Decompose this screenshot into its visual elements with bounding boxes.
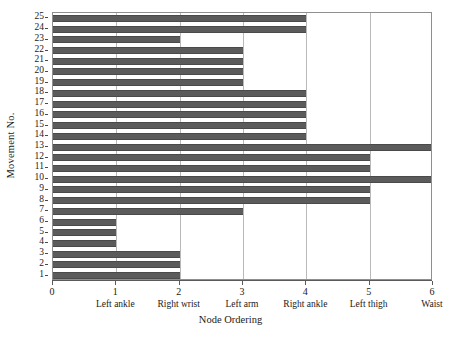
bar-movement-6 bbox=[53, 219, 116, 226]
y-tick-mark-7 bbox=[45, 210, 48, 211]
y-tick-label-21: 21 bbox=[35, 55, 45, 65]
y-tick-mark-15 bbox=[45, 125, 48, 126]
bar-movement-10 bbox=[53, 176, 432, 183]
bar-movement-11 bbox=[53, 165, 370, 172]
y-tick-label-17: 17 bbox=[35, 98, 45, 108]
bar-movement-7 bbox=[53, 208, 243, 215]
x-tick-number-5: 5 bbox=[366, 286, 371, 297]
y-tick-mark-9 bbox=[45, 189, 48, 190]
bar-movement-23 bbox=[53, 36, 180, 43]
y-tick-label-23: 23 bbox=[35, 34, 45, 44]
x-tick-number-2: 2 bbox=[176, 286, 181, 297]
y-tick-label-4: 4 bbox=[39, 238, 44, 248]
x-tick-number-6: 6 bbox=[430, 286, 435, 297]
y-tick-label-10: 10 bbox=[35, 173, 45, 183]
x-tick-mark-4 bbox=[305, 281, 306, 285]
y-tick-mark-25 bbox=[45, 17, 48, 18]
y-tick-mark-22 bbox=[45, 50, 48, 51]
x-tick-mark-6 bbox=[432, 281, 433, 285]
plot-area bbox=[52, 12, 432, 280]
x-tick-node-name-3: Left arm bbox=[226, 299, 259, 310]
bar-movement-13 bbox=[53, 144, 432, 151]
y-tick-label-8: 8 bbox=[39, 195, 44, 205]
y-tick-mark-13 bbox=[45, 146, 48, 147]
y-tick-mark-16 bbox=[45, 114, 48, 115]
bar-movement-16 bbox=[53, 111, 306, 118]
bar-movement-5 bbox=[53, 229, 116, 236]
x-tick-node-name-5: Left thigh bbox=[350, 299, 388, 310]
bar-movement-19 bbox=[53, 79, 243, 86]
y-tick-mark-3 bbox=[45, 253, 48, 254]
y-tick-label-1: 1 bbox=[39, 270, 44, 280]
y-tick-label-24: 24 bbox=[35, 23, 45, 33]
bar-movement-21 bbox=[53, 58, 243, 65]
y-tick-label-11: 11 bbox=[35, 163, 44, 173]
bar-movement-14 bbox=[53, 133, 306, 140]
x-axis-title: Node Ordering bbox=[0, 314, 461, 325]
bar-movement-2 bbox=[53, 261, 180, 268]
y-tick-mark-4 bbox=[45, 242, 48, 243]
y-tick-label-9: 9 bbox=[39, 184, 44, 194]
x-tick-mark-5 bbox=[369, 281, 370, 285]
y-tick-mark-6 bbox=[45, 221, 48, 222]
bar-movement-17 bbox=[53, 101, 306, 108]
bar-movement-12 bbox=[53, 154, 370, 161]
bar-movement-4 bbox=[53, 240, 116, 247]
y-tick-label-20: 20 bbox=[35, 66, 45, 76]
y-tick-mark-2 bbox=[45, 264, 48, 265]
x-tick-mark-1 bbox=[115, 281, 116, 285]
y-axis-title-text: Movement No. bbox=[6, 112, 17, 178]
y-tick-mark-17 bbox=[45, 103, 48, 104]
y-tick-mark-19 bbox=[45, 82, 48, 83]
bar-movement-25 bbox=[53, 15, 306, 22]
x-tick-node-name-2: Right wrist bbox=[157, 299, 200, 310]
bar-movement-15 bbox=[53, 122, 306, 129]
y-tick-mark-1 bbox=[45, 275, 48, 276]
y-tick-label-6: 6 bbox=[39, 216, 44, 226]
y-tick-mark-11 bbox=[45, 167, 48, 168]
y-tick-label-2: 2 bbox=[39, 259, 44, 269]
bar-movement-22 bbox=[53, 47, 243, 54]
y-tick-label-18: 18 bbox=[35, 88, 45, 98]
y-tick-mark-10 bbox=[45, 178, 48, 179]
y-tick-label-25: 25 bbox=[35, 13, 45, 23]
y-tick-label-13: 13 bbox=[35, 141, 45, 151]
y-tick-mark-12 bbox=[45, 157, 48, 158]
y-tick-mark-8 bbox=[45, 200, 48, 201]
bar-movement-20 bbox=[53, 68, 243, 75]
y-tick-mark-14 bbox=[45, 135, 48, 136]
x-tick-node-name-4: Right ankle bbox=[283, 299, 327, 310]
bar-movement-18 bbox=[53, 90, 306, 97]
bar-chart-figure: Movement No. 123456789101112131415161718… bbox=[0, 0, 461, 338]
y-tick-label-12: 12 bbox=[35, 152, 45, 162]
x-tick-number-1: 1 bbox=[113, 286, 118, 297]
y-tick-label-22: 22 bbox=[35, 45, 45, 55]
y-tick-label-5: 5 bbox=[39, 227, 44, 237]
y-tick-mark-5 bbox=[45, 232, 48, 233]
y-tick-label-15: 15 bbox=[35, 120, 45, 130]
y-axis-tick-labels: 1234567891011121314151617181920212223242… bbox=[20, 10, 48, 280]
y-tick-label-3: 3 bbox=[39, 248, 44, 258]
x-tick-mark-2 bbox=[179, 281, 180, 285]
x-tick-node-name-6: Waist bbox=[421, 299, 442, 310]
y-tick-label-16: 16 bbox=[35, 109, 45, 119]
y-tick-mark-18 bbox=[45, 92, 48, 93]
x-tick-mark-3 bbox=[242, 281, 243, 285]
x-tick-node-name-1: Left ankle bbox=[96, 299, 135, 310]
y-tick-label-7: 7 bbox=[39, 206, 44, 216]
y-tick-mark-24 bbox=[45, 28, 48, 29]
x-tick-number-0: 0 bbox=[50, 286, 55, 297]
y-tick-mark-20 bbox=[45, 71, 48, 72]
y-tick-label-19: 19 bbox=[35, 77, 45, 87]
x-tick-mark-0 bbox=[52, 281, 53, 285]
x-tick-number-4: 4 bbox=[303, 286, 308, 297]
y-tick-label-14: 14 bbox=[35, 131, 45, 141]
y-tick-mark-21 bbox=[45, 60, 48, 61]
y-axis-title: Movement No. bbox=[0, 0, 22, 290]
y-tick-mark-23 bbox=[45, 39, 48, 40]
x-tick-number-3: 3 bbox=[240, 286, 245, 297]
bar-movement-1 bbox=[53, 272, 180, 279]
bar-movement-9 bbox=[53, 186, 370, 193]
bar-movement-3 bbox=[53, 251, 180, 258]
bar-movement-24 bbox=[53, 26, 306, 33]
